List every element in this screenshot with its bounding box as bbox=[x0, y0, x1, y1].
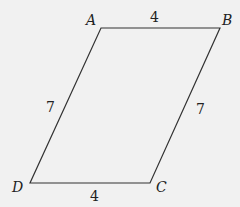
vertex-label-d: D bbox=[11, 179, 23, 195]
side-length-da: 7 bbox=[46, 99, 55, 115]
vertex-label-c: C bbox=[156, 179, 167, 195]
parallelogram-abcd bbox=[30, 28, 220, 183]
vertex-label-b: B bbox=[221, 12, 232, 28]
side-length-ab: 4 bbox=[150, 9, 159, 25]
vertex-label-a: A bbox=[84, 12, 96, 28]
parallelogram-diagram: A B C D 4 7 4 7 bbox=[0, 0, 240, 207]
side-length-bc: 7 bbox=[196, 101, 205, 117]
side-length-cd: 4 bbox=[90, 188, 99, 204]
